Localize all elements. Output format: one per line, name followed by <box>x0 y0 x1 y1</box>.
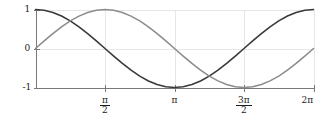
fraction-three-half-pi: 3π 2 <box>236 96 252 116</box>
x-axis-tick-label-two-pi: 2π <box>302 96 314 105</box>
y-axis-tick-label-0: 0 <box>25 44 31 53</box>
pi-glyph: π <box>172 95 178 105</box>
series-line-sinx <box>36 10 314 88</box>
fraction-half-pi: π 2 <box>100 96 110 116</box>
x-axis-tick-label-three-half-pi: 3π 2 <box>236 96 252 116</box>
fraction-denominator: 2 <box>100 106 110 115</box>
y-axis-tick-label-1: 1 <box>25 5 31 14</box>
trig-function-chart: 1 0 -1 π 2 π 3π 2 2π <box>0 0 327 126</box>
x-axis-tick-label-pi: π <box>172 96 178 105</box>
data-series <box>36 10 314 88</box>
chart-canvas <box>0 0 327 126</box>
fraction-denominator: 2 <box>236 106 252 115</box>
two-pi-glyph: 2π <box>302 95 314 105</box>
y-axis-tick-label-minus1: -1 <box>23 83 32 92</box>
x-axis-tick-label-half-pi: π 2 <box>100 96 110 116</box>
